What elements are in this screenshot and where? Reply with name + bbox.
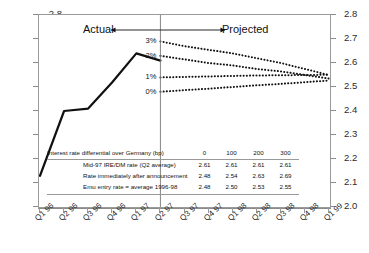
y-tick-mark-right (331, 14, 336, 15)
table-row: Rate immediately after announcement2.482… (47, 171, 299, 182)
table-cell: 2.61 (191, 160, 218, 171)
table-row: Emu entry rate = average 1996-982.482.50… (47, 182, 299, 194)
scenario-label-0pct: 0% (140, 87, 156, 96)
table-cell: 2.48 (191, 171, 218, 182)
table-header-value: 0 (191, 148, 218, 160)
table-header-label: Interest rate differential over Germany … (47, 148, 191, 160)
table-row-label: Mid-97 IRE/DM rate (Q2 average) (47, 160, 191, 171)
table-row: Mid-97 IRE/DM rate (Q2 average)2.612.612… (47, 160, 299, 171)
y-tick-label-right: 2.8 (344, 9, 357, 19)
annotation-actual: Actual (83, 23, 114, 35)
table-header-value: 100 (218, 148, 245, 160)
y-tick-mark-right (331, 110, 336, 111)
arrow-projected (160, 28, 225, 33)
table-cell: 2.53 (245, 182, 272, 194)
y-tick-label-right: 2.5 (344, 81, 357, 91)
scenario-label-1pct: 1% (140, 72, 156, 81)
y-tick-mark-right (331, 38, 336, 39)
y-tick-mark-right (331, 134, 336, 135)
table-header-value: 300 (272, 148, 299, 160)
scenario-label-2pct: 2% (140, 51, 156, 60)
table-bottom-rule (47, 194, 299, 195)
table-cell: 2.50 (218, 182, 245, 194)
table-cell: 2.69 (272, 171, 299, 182)
table-cell: 2.48 (191, 182, 218, 194)
table-row-label: Rate immediately after announcement (47, 171, 191, 182)
x-tick-label: Q1 96 (33, 201, 56, 223)
chart-figure: 2.82.72.62.52.42.32.22.12.0 2.82.72.62.5… (0, 0, 369, 253)
table-header-value: 200 (245, 148, 272, 160)
series-3pct (160, 41, 329, 75)
table-cell: 2.61 (245, 160, 272, 171)
y-tick-mark-right (331, 62, 336, 63)
table-cell: 2.63 (245, 171, 272, 182)
table-cell: 2.55 (272, 182, 299, 194)
y-tick-mark-right (331, 86, 336, 87)
y-tick-label-right: 2.7 (344, 33, 357, 43)
scenario-label-3pct: 3% (140, 36, 156, 45)
table-row-label: Emu entry rate = average 1996-98 (47, 182, 191, 194)
table-cell: 2.61 (218, 160, 245, 171)
y-tick-mark-right (331, 158, 336, 159)
y-tick-label-right: 2.4 (344, 105, 357, 115)
y-tick-mark-right (331, 182, 336, 183)
y-tick-label-right: 2.6 (344, 57, 357, 67)
table-cell: 2.61 (272, 160, 299, 171)
table-cell: 2.54 (218, 171, 245, 182)
y-tick-label-right: 2.3 (344, 129, 357, 139)
series-0pct (160, 81, 329, 92)
series-1pct (160, 75, 329, 78)
y-tick-label-right: 2.2 (344, 153, 357, 163)
arrow-actual (111, 28, 160, 33)
y-tick-label-right: 2.1 (344, 177, 357, 187)
y-tick-label-right: 2.0 (344, 201, 357, 211)
table-header-row: Interest rate differential over Germany … (47, 148, 299, 160)
annotation-projected: Projected (222, 23, 268, 35)
data-table: Interest rate differential over Germany … (47, 148, 299, 195)
